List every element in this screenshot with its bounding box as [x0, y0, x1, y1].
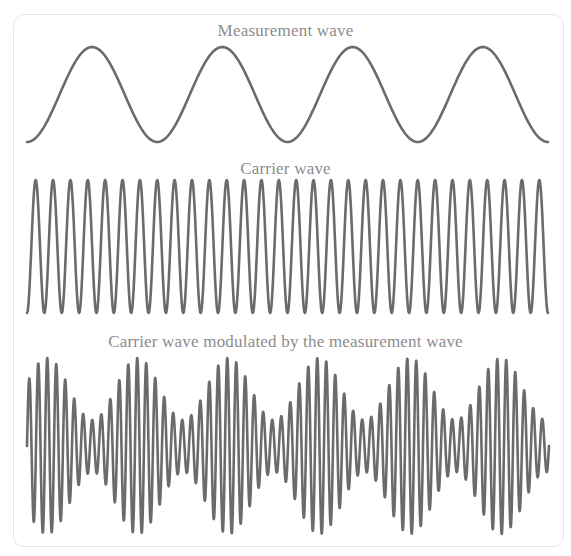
measurement-wave-curve — [27, 47, 548, 142]
modulated-wave-curve — [27, 358, 549, 534]
carrier-wave-curve — [27, 180, 548, 313]
waves-canvas — [0, 0, 571, 556]
